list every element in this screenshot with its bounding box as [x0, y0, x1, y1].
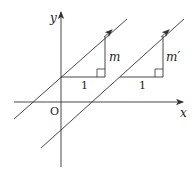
- right-angle-icon: [155, 69, 163, 77]
- line-1: [14, 19, 127, 119]
- x-axis-label: x: [180, 106, 187, 120]
- run-label-1-second: 1: [139, 79, 146, 92]
- run-label-1: 1: [81, 79, 88, 92]
- slope-label-m: m: [109, 50, 120, 64]
- slope-label-m-prime: m′: [166, 50, 180, 64]
- origin-label: O: [50, 105, 59, 118]
- y-axis-label: y: [49, 11, 57, 25]
- right-angle-icon: [97, 69, 105, 77]
- parallel-lines-slope-diagram: y x O m 1 m′ 1: [0, 0, 195, 177]
